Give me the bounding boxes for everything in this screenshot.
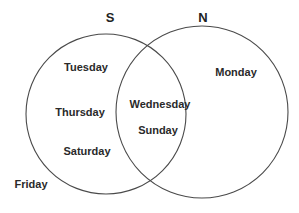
item-wednesday: Wednesday	[130, 98, 192, 110]
venn-diagram: S N Tuesday Thursday Saturday Monday Wed…	[0, 0, 299, 213]
item-friday: Friday	[14, 178, 48, 190]
set-n-circle	[116, 26, 288, 198]
set-s-label: S	[106, 10, 115, 25]
item-tuesday: Tuesday	[64, 61, 109, 73]
item-monday: Monday	[215, 66, 257, 78]
item-thursday: Thursday	[55, 106, 105, 118]
item-saturday: Saturday	[63, 145, 111, 157]
set-s-circle	[26, 34, 186, 194]
item-sunday: Sunday	[138, 124, 179, 136]
set-n-label: N	[198, 10, 207, 25]
